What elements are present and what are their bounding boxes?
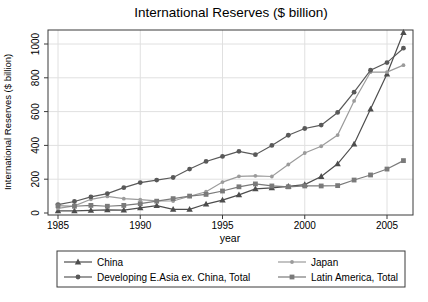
series-marker-japan: [402, 63, 406, 67]
series-marker-china: [318, 173, 324, 179]
series-marker-latin-america-total: [220, 189, 225, 194]
legend-label-developing-e-asia-ex-china-total: Developing E.Asia ex. China, Total: [97, 272, 250, 283]
series-marker-japan: [336, 133, 340, 137]
series-marker-latin-america-total: [286, 184, 291, 189]
x-tick-label: 1985: [47, 220, 70, 231]
series-marker-developing-e-asia-ex-china-total: [302, 126, 307, 131]
line-chart: 1985199019952000200502004006008001000 In…: [0, 0, 428, 302]
series-marker-latin-america-total: [56, 203, 61, 208]
series-china: [55, 29, 407, 213]
series-marker-latin-america-total: [237, 184, 242, 189]
series-marker-latin-america-total: [171, 196, 176, 201]
series-japan: [56, 63, 405, 210]
legend-label-japan: Japan: [311, 257, 338, 268]
plot-frame: [48, 30, 413, 215]
series-marker-developing-e-asia-ex-china-total: [237, 149, 242, 154]
gridlines: [48, 30, 413, 215]
series-marker-developing-e-asia-ex-china-total: [286, 133, 291, 138]
x-tick-label: 1995: [211, 220, 234, 231]
legend-marker-developing-e-asia-ex-china-total: [76, 275, 81, 280]
series-marker-developing-e-asia-ex-china-total: [269, 143, 274, 148]
series-marker-developing-e-asia-ex-china-total: [385, 60, 390, 65]
series-marker-developing-e-asia-ex-china-total: [253, 152, 258, 157]
series-marker-developing-e-asia-ex-china-total: [72, 199, 77, 204]
series-marker-latin-america-total: [72, 204, 77, 209]
series-marker-developing-e-asia-ex-china-total: [171, 175, 176, 180]
series-marker-japan: [385, 70, 389, 74]
series-latin-america-total: [56, 158, 406, 208]
x-tick-label: 2000: [294, 220, 317, 231]
series-marker-developing-e-asia-ex-china-total: [352, 90, 357, 95]
series-marker-japan: [270, 175, 274, 179]
series-marker-japan: [319, 144, 323, 148]
legend-marker-japan: [290, 260, 294, 264]
legend-marker-latin-america-total: [290, 275, 295, 280]
y-tick-label: 0: [30, 210, 41, 216]
x-tick-label: 1990: [129, 220, 152, 231]
series-marker-latin-america-total: [302, 184, 307, 189]
series-marker-japan: [286, 163, 290, 167]
x-tick-label: 2005: [376, 220, 399, 231]
series-marker-latin-america-total: [401, 158, 406, 163]
series-marker-latin-america-total: [368, 173, 373, 178]
legend-label-latin-america-total: Latin America, Total: [311, 272, 398, 283]
series-marker-developing-e-asia-ex-china-total: [319, 123, 324, 128]
series-marker-japan: [138, 198, 142, 202]
series-marker-latin-america-total: [352, 178, 357, 183]
series-line-latin-america-total: [58, 161, 403, 207]
series-marker-developing-e-asia-ex-china-total: [220, 154, 225, 159]
series-marker-developing-e-asia-ex-china-total: [154, 178, 159, 183]
series-marker-developing-e-asia-ex-china-total: [401, 46, 406, 51]
y-tick-label: 400: [30, 137, 41, 154]
series-marker-developing-e-asia-ex-china-total: [335, 110, 340, 115]
series-marker-latin-america-total: [154, 199, 159, 204]
series-developing-e-asia-ex-china-total: [56, 46, 406, 207]
series-line-china: [58, 33, 403, 211]
series-marker-japan: [303, 151, 307, 155]
series-marker-latin-america-total: [105, 204, 110, 209]
series-marker-latin-america-total: [269, 184, 274, 189]
series-marker-developing-e-asia-ex-china-total: [204, 159, 209, 164]
series-marker-japan: [254, 174, 258, 178]
chart-title: International Reserves ($ billion): [134, 5, 328, 20]
y-axis-title: International Reserves ($ billion): [2, 54, 13, 190]
series-marker-developing-e-asia-ex-china-total: [89, 195, 94, 200]
series-marker-latin-america-total: [319, 184, 324, 189]
series-marker-developing-e-asia-ex-china-total: [105, 191, 110, 196]
y-tick-label: 200: [30, 170, 41, 187]
series-marker-japan: [221, 180, 225, 184]
series-marker-japan: [352, 99, 356, 103]
series-marker-japan: [122, 197, 126, 201]
series-marker-china: [351, 141, 357, 147]
series-line-japan: [58, 65, 403, 208]
legend: ChinaJapanDeveloping E.Asia ex. China, T…: [57, 251, 405, 287]
chart-figure: 1985199019952000200502004006008001000 In…: [0, 0, 428, 302]
series-marker-china: [367, 106, 373, 112]
series-marker-latin-america-total: [385, 167, 390, 172]
series-marker-latin-america-total: [138, 201, 143, 206]
y-tick-label: 800: [30, 69, 41, 86]
series-marker-latin-america-total: [89, 203, 94, 208]
series-marker-developing-e-asia-ex-china-total: [368, 68, 373, 73]
series-marker-latin-america-total: [204, 192, 209, 197]
series-marker-latin-america-total: [335, 183, 340, 188]
series-marker-developing-e-asia-ex-china-total: [187, 167, 192, 172]
y-tick-label: 600: [30, 103, 41, 120]
legend-label-china: China: [97, 257, 124, 268]
series-marker-developing-e-asia-ex-china-total: [138, 180, 143, 185]
series-marker-latin-america-total: [253, 182, 258, 187]
x-axis-title: year: [220, 232, 241, 244]
series-marker-latin-america-total: [121, 203, 126, 208]
series-marker-japan: [237, 174, 241, 178]
series-layer: [55, 29, 407, 213]
y-tick-label: 1000: [30, 32, 41, 55]
series-marker-latin-america-total: [187, 194, 192, 199]
plot-frame-layer: [48, 30, 413, 215]
series-marker-developing-e-asia-ex-china-total: [121, 185, 126, 190]
